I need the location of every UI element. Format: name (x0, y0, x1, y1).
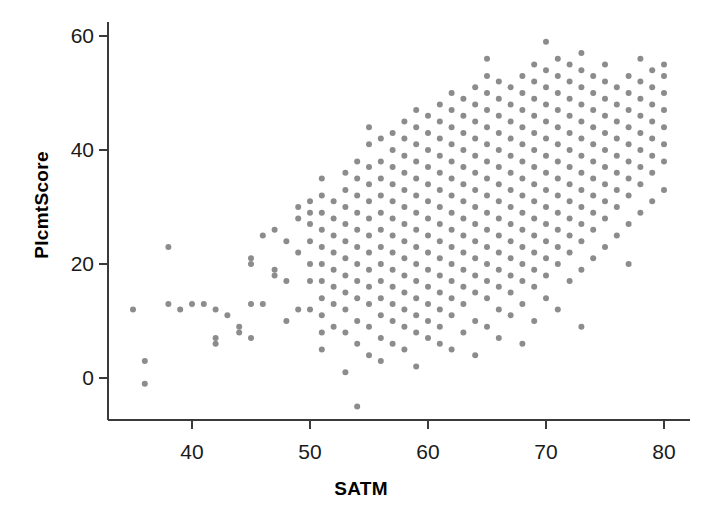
data-point (567, 278, 573, 284)
data-point (508, 119, 514, 125)
data-point (366, 164, 372, 170)
data-point (413, 244, 419, 250)
data-point (555, 73, 561, 79)
data-point (484, 124, 490, 130)
data-point (472, 221, 478, 227)
data-point (449, 278, 455, 284)
data-point (637, 79, 643, 85)
data-point (602, 96, 608, 102)
data-point (508, 84, 514, 90)
data-point (519, 227, 525, 233)
data-point (390, 147, 396, 153)
data-point (637, 96, 643, 102)
data-point (449, 244, 455, 250)
data-point (496, 130, 502, 136)
data-point (661, 187, 667, 193)
data-point (307, 261, 313, 267)
data-point (602, 198, 608, 204)
data-point (224, 312, 230, 318)
data-point (425, 318, 431, 324)
data-point (319, 261, 325, 267)
data-point (543, 67, 549, 73)
data-point (401, 347, 407, 353)
data-point (401, 153, 407, 159)
data-point (401, 290, 407, 296)
data-point (283, 318, 289, 324)
data-point (543, 238, 549, 244)
data-point (567, 215, 573, 221)
data-point (342, 255, 348, 261)
data-point (460, 301, 466, 307)
data-point (519, 210, 525, 216)
data-point (484, 278, 490, 284)
data-point (578, 204, 584, 210)
data-point (295, 204, 301, 210)
data-point (519, 176, 525, 182)
data-point (472, 238, 478, 244)
data-point (555, 56, 561, 62)
data-point (142, 358, 148, 364)
data-point (661, 124, 667, 130)
x-axis-tick-label: 70 (534, 440, 557, 464)
data-point (413, 107, 419, 113)
data-point (390, 130, 396, 136)
data-point (508, 238, 514, 244)
data-point (637, 164, 643, 170)
data-point (543, 170, 549, 176)
data-point (331, 215, 337, 221)
data-point (508, 312, 514, 318)
data-point (413, 227, 419, 233)
data-point (472, 272, 478, 278)
data-point (449, 90, 455, 96)
data-point (484, 295, 490, 301)
data-point (272, 267, 278, 273)
data-point (354, 176, 360, 182)
data-point (519, 124, 525, 130)
data-point (543, 39, 549, 45)
data-point (366, 301, 372, 307)
data-point (590, 141, 596, 147)
data-point (555, 90, 561, 96)
data-point (602, 130, 608, 136)
data-point (449, 227, 455, 233)
data-point (437, 238, 443, 244)
data-point (378, 295, 384, 301)
data-point (567, 96, 573, 102)
data-point (567, 233, 573, 239)
data-point (496, 96, 502, 102)
data-point (425, 301, 431, 307)
data-point (449, 107, 455, 113)
data-point (567, 164, 573, 170)
data-point (437, 101, 443, 107)
data-point (602, 164, 608, 170)
data-point (213, 335, 219, 341)
data-point (531, 113, 537, 119)
data-point (425, 198, 431, 204)
data-point (614, 101, 620, 107)
data-point (390, 318, 396, 324)
data-point (401, 238, 407, 244)
data-point (590, 193, 596, 199)
data-point (390, 250, 396, 256)
data-point (578, 119, 584, 125)
data-point (567, 130, 573, 136)
data-point (649, 170, 655, 176)
data-point (626, 221, 632, 227)
data-point (165, 301, 171, 307)
data-point (567, 62, 573, 68)
data-point (626, 90, 632, 96)
data-point (142, 381, 148, 387)
data-point (460, 113, 466, 119)
data-point (401, 204, 407, 210)
data-point (425, 164, 431, 170)
data-point (555, 141, 561, 147)
y-axis-title: PlcmtScore (31, 151, 53, 259)
data-point (437, 290, 443, 296)
data-point (295, 250, 301, 256)
data-point (543, 153, 549, 159)
data-point (342, 307, 348, 313)
data-point (236, 324, 242, 330)
data-point (626, 107, 632, 113)
data-point (437, 307, 443, 313)
data-point (472, 136, 478, 142)
